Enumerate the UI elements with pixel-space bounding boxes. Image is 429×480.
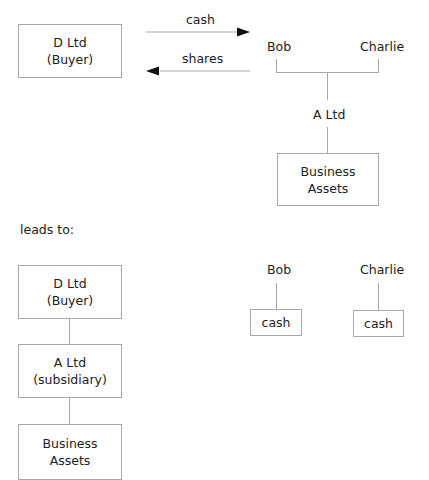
after-buyer-box: D Ltd (Buyer): [18, 265, 122, 319]
after-assets-box: Business Assets: [18, 424, 122, 480]
after-subsidiary-box: A Ltd (subsidiary): [18, 344, 122, 398]
after-buyer-name: D Ltd: [53, 275, 86, 292]
subsidiary-name: A Ltd: [54, 354, 86, 371]
after-assets-line2: Assets: [50, 452, 91, 469]
before-shareholder-charlie: Charlie: [360, 39, 404, 54]
shares-arrow-label: shares: [182, 51, 223, 66]
cash-arrow-label: cash: [186, 12, 215, 27]
charlie-cash-box: cash: [353, 310, 404, 337]
leads-to-label: leads to:: [20, 222, 74, 237]
bob-cash-line: [276, 283, 277, 310]
bob-connector: [276, 59, 277, 72]
bob-cash-box: cash: [250, 309, 302, 336]
charlie-cash-label: cash: [364, 315, 393, 332]
after-buyer-role: (Buyer): [47, 292, 93, 309]
subsidiary-role: (subsidiary): [33, 371, 107, 388]
arrow-right-icon: [237, 28, 250, 37]
arrow-left-icon: [146, 67, 159, 76]
buyer-subsidiary-line: [69, 319, 70, 345]
bob-cash-label: cash: [262, 314, 291, 331]
before-assets-box: Business Assets: [277, 153, 379, 206]
after-assets-line1: Business: [42, 435, 97, 452]
subsidiary-assets-line: [69, 398, 70, 425]
charlie-cash-line: [378, 283, 379, 310]
charlie-connector: [378, 59, 379, 72]
after-shareholder-charlie: Charlie: [360, 262, 404, 277]
after-shareholder-bob: Bob: [267, 262, 291, 277]
before-assets-line1: Business: [300, 163, 355, 180]
company-assets-line: [327, 127, 328, 154]
before-assets-line2: Assets: [308, 180, 349, 197]
before-shareholder-bob: Bob: [267, 39, 291, 54]
ownership-line: [327, 72, 328, 100]
before-company-label: A Ltd: [313, 107, 345, 122]
